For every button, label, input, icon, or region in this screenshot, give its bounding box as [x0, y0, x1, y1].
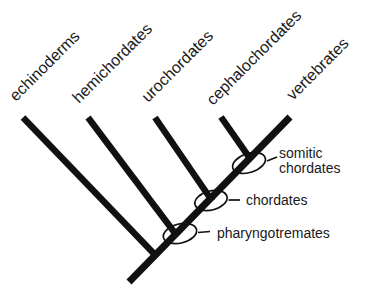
- callout-line-somitic-chordates: [267, 157, 277, 161]
- taxon-label-vertebrates: vertebrates: [283, 34, 352, 103]
- clade-label-chordates: chordates: [246, 192, 307, 208]
- clade-label-somitic-chordates-line2: chordates: [279, 160, 340, 176]
- clade-label-somitic-chordates-line1: somitic: [279, 145, 323, 161]
- callout-line-pharyngotremates: [198, 232, 210, 233]
- cladogram-svg: echinoderms hemichordates urochordates c…: [0, 0, 366, 296]
- clade-label-pharyngotremates: pharyngotremates: [217, 225, 330, 241]
- branch-urochordates: [155, 118, 212, 202]
- cladogram-figure: echinoderms hemichordates urochordates c…: [0, 0, 366, 296]
